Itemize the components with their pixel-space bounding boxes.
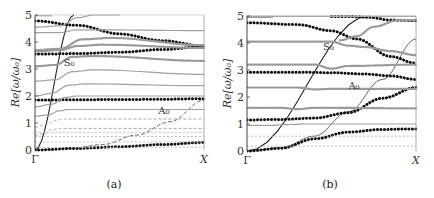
series-gray-curve-1-6	[247, 108, 416, 109]
y-tick-label: 2	[237, 91, 244, 104]
y-tick-label: 3	[237, 64, 244, 77]
annotation-a0: A₀	[157, 105, 169, 116]
series-gray-curve-2-95	[35, 70, 204, 81]
y-tick-label: 4	[237, 37, 244, 50]
y-tick-label: 3	[25, 63, 32, 76]
y-axis-label: Re[ω/ω₀]	[221, 58, 234, 109]
series-gray-curve-3-45	[35, 56, 204, 66]
x-tick-x: X	[199, 153, 209, 166]
annotation-s0: S₀	[323, 41, 334, 52]
series-gray-curve-4-4	[35, 30, 204, 33]
series-gray-curve-2-35	[247, 88, 416, 90]
y-tick-label: 5	[25, 9, 32, 22]
series-gray-curve-1-15	[35, 119, 204, 127]
series-black-dotted-4	[35, 21, 204, 46]
x-tick-x: X	[411, 154, 421, 167]
y-tick-label: 2	[25, 90, 32, 103]
series-black-dotted-2	[247, 88, 416, 121]
annotation-s0: S₀	[64, 57, 75, 68]
series-gray-curve-3-2	[247, 65, 416, 69]
series-gray-curve-2-45	[35, 84, 204, 96]
series-gray-curve-0-8	[35, 128, 204, 135]
annotation-a0: A₀	[347, 80, 359, 91]
x-tick-gamma: Γ	[243, 154, 251, 167]
y-tick-label: 4	[25, 36, 32, 49]
series-gray-curve-1-5	[35, 110, 204, 117]
y-tick-label: 1	[237, 118, 244, 131]
panel-a-chart: 012345ΓXRe[ω/ω₀]S₀A₀	[9, 9, 209, 166]
panel-b-chart: 012345ΓXRe[ω/ω₀]S₀A₀	[221, 10, 421, 167]
caption-a: (a)	[106, 178, 121, 191]
y-tick-label: 5	[237, 10, 244, 23]
x-tick-gamma: Γ	[31, 153, 39, 166]
y-tick-label: 1	[25, 117, 32, 130]
figure: 012345ΓXRe[ω/ω₀]S₀A₀ 012345ΓXRe[ω/ω₀]S₀A…	[0, 0, 434, 198]
series-black-dotted-1	[35, 142, 204, 150]
series-black-dotted-1	[247, 129, 416, 151]
y-axis-label: Re[ω/ω₀]	[9, 57, 22, 108]
caption-b: (b)	[322, 178, 338, 191]
